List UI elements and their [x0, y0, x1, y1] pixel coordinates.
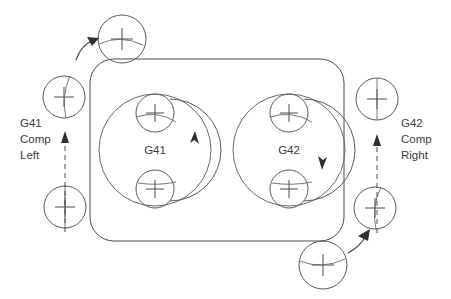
right-comp-annotation: G42 Comp Right [401, 117, 432, 161]
right-comp-line1: G42 [401, 117, 423, 129]
pocket-g41-direction-arrow-icon [190, 131, 199, 144]
top-lead-in-arrow [76, 37, 99, 60]
right-comp-line2: Comp [401, 133, 432, 145]
pocket-g42-direction-arrow-icon [318, 156, 327, 170]
bottom-lead-in-arrow [348, 229, 370, 253]
diagram-canvas: G41 G42 [0, 0, 451, 299]
pocket-g42-bottom-tool [270, 170, 312, 208]
pocket-g41-top-tool [136, 94, 176, 132]
left-comp-line2: Comp [20, 133, 51, 145]
right-comp-arrow-head-icon [373, 134, 381, 146]
left-upper-tool [43, 76, 85, 118]
pocket-g41-bottom-tool [136, 170, 176, 208]
pocket-g41-toolpath-arc [170, 99, 221, 201]
cutter-compensation-diagram: G41 G42 [0, 0, 451, 299]
bottom-lead-in-tool [299, 241, 347, 289]
pocket-g42-label: G42 [278, 144, 300, 156]
right-comp-line3: Right [401, 149, 429, 161]
right-lower-tool [354, 187, 396, 229]
pocket-g41: G41 [99, 94, 221, 208]
pocket-g42: G42 [233, 94, 355, 208]
right-upper-tool [356, 78, 398, 120]
pocket-g42-toolpath-arc [304, 99, 355, 201]
pocket-g41-label: G41 [144, 144, 166, 156]
left-comp-annotation: G41 Comp Left [20, 117, 51, 161]
left-comp-line1: G41 [20, 117, 42, 129]
pocket-g42-top-tool [270, 94, 312, 132]
stock-outline [90, 59, 344, 241]
top-lead-in-tool [98, 15, 146, 63]
left-comp-arrow-head-icon [61, 131, 69, 143]
left-comp-line3: Left [20, 149, 40, 161]
